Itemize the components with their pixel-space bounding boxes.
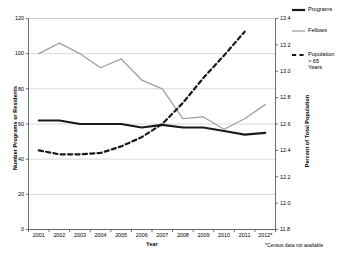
y-tick-right-0: 11.8 bbox=[280, 226, 304, 232]
y-tick-left-4: 80 bbox=[2, 86, 24, 92]
y-axis-title-left: Number Programs or Residents bbox=[12, 58, 18, 198]
series-line-fellows bbox=[39, 43, 265, 129]
y-tick-right-1: 12.0 bbox=[280, 200, 304, 206]
y-tick-right-3: 12.4 bbox=[280, 147, 304, 153]
y-tick-left-3: 60 bbox=[2, 121, 24, 127]
series-line-programs bbox=[39, 120, 265, 134]
x-axis-title: Year bbox=[28, 241, 276, 247]
y-tick-left-2: 40 bbox=[2, 156, 24, 162]
data-series-layer bbox=[39, 32, 265, 155]
y-tick-left-6: 120 bbox=[2, 15, 24, 21]
legend-label-1: Fellows bbox=[308, 27, 327, 33]
series-line-population-65-years bbox=[39, 32, 245, 155]
y-tick-right-6: 13.0 bbox=[280, 68, 304, 74]
y-axis-title-right: Percent of Total Population bbox=[304, 61, 310, 201]
footnote-census-note: *Census data not available bbox=[265, 243, 323, 248]
gridlines bbox=[29, 19, 276, 230]
y-tick-right-8: 13.4 bbox=[280, 15, 304, 21]
y-tick-left-1: 20 bbox=[2, 191, 24, 197]
legend-label-2: Population > 65 Years bbox=[308, 51, 334, 70]
legend-label-0: Programs bbox=[308, 6, 332, 12]
y-tick-right-2: 12.2 bbox=[280, 174, 304, 180]
chart-figure: Number Programs or Residents Percent of … bbox=[0, 0, 353, 255]
y-tick-left-0: 0 bbox=[2, 226, 24, 232]
x-tick-2012: 2012* bbox=[252, 232, 278, 238]
y-tick-left-5: 100 bbox=[2, 50, 24, 56]
y-tick-right-5: 12.8 bbox=[280, 94, 304, 100]
y-tick-right-7: 13.2 bbox=[280, 42, 304, 48]
y-tick-right-4: 12.6 bbox=[280, 121, 304, 127]
chart-plot-area bbox=[0, 0, 353, 255]
